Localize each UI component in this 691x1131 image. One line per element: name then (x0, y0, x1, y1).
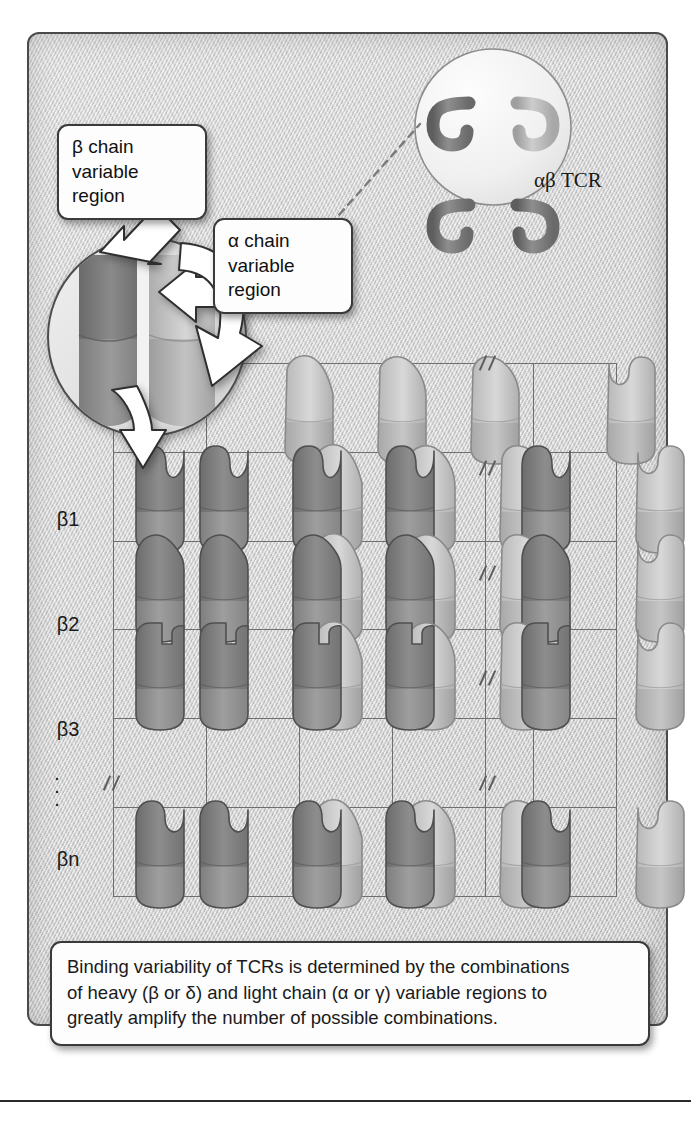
row-header-ellipsis: ··· (46, 770, 68, 809)
chain-pair (207, 453, 299, 541)
matrix-cell-betan-alphan[interactable] (534, 808, 617, 897)
matrix-cell-dots-break[interactable] (486, 719, 534, 808)
chain-pair (534, 542, 616, 630)
chain-pair (534, 630, 616, 718)
matrix-cell-dots-alpha1[interactable] (207, 719, 300, 808)
matrix-cell-beta2-alphan[interactable] (534, 541, 617, 630)
alpha-callout-line1: α chain (228, 229, 338, 254)
matrix-cell-header-alphan[interactable] (534, 364, 617, 453)
matrix-cell-dots-self[interactable] (114, 719, 207, 808)
matrix-row (114, 541, 617, 630)
matrix-cell-betan-alpha1[interactable] (207, 808, 300, 897)
chain-pair (534, 453, 616, 541)
chain-pair (114, 630, 206, 718)
matrix-cell-beta2-alpha1[interactable] (207, 541, 300, 630)
matrix-cell-beta3-alpha1[interactable] (207, 630, 300, 719)
matrix-cell-beta1-alphan[interactable] (534, 452, 617, 541)
chain-pair (207, 630, 299, 718)
matrix-cell-beta1-alpha1[interactable] (207, 452, 300, 541)
caption-line-1: Binding variability of TCRs is determine… (67, 954, 633, 980)
chain-pair (300, 542, 392, 630)
matrix-row (114, 630, 617, 719)
matrix-cell-beta3-alpha3[interactable] (393, 630, 486, 719)
matrix-cell-beta2-self[interactable] (114, 541, 207, 630)
alpha-chain-callout: α chain variable region (213, 218, 353, 314)
row-header-beta1: β1 (38, 508, 98, 531)
matrix-cell-betan-alpha2[interactable] (300, 808, 393, 897)
caption-line-2: of heavy (β or δ) and light chain (α or … (67, 980, 633, 1006)
tcr-combination-matrix (113, 363, 616, 897)
tcr-label: αβ TCR (534, 168, 602, 193)
chain-pair (300, 808, 392, 896)
chain-pair (534, 808, 616, 896)
chain-pair (393, 453, 485, 541)
matrix-cell-beta1-alpha3[interactable] (393, 452, 486, 541)
chain-pair (393, 364, 485, 452)
matrix-cell-beta2-alpha3[interactable] (393, 541, 486, 630)
beta-callout-line1: β chain (72, 135, 192, 160)
magnified-beta-variable-region (79, 255, 137, 426)
matrix-cell-betan-alpha3[interactable] (393, 808, 486, 897)
chain-pair (534, 364, 616, 452)
matrix-cell-beta3-alphan[interactable] (534, 630, 617, 719)
matrix-cell-header-break[interactable] (486, 364, 534, 453)
chain-pair (393, 808, 485, 896)
magnified-alpha-variable-region (149, 255, 215, 426)
caption-line-3: greatly amplify the number of possible c… (67, 1005, 633, 1031)
matrix-row (114, 452, 617, 541)
chain-pair (114, 453, 206, 541)
matrix-cell-dots-alpha3[interactable] (393, 719, 486, 808)
figure-caption: Binding variability of TCRs is determine… (50, 941, 650, 1046)
matrix-row (114, 719, 617, 808)
matrix-cell-header-alpha3[interactable] (393, 364, 486, 453)
beta-callout-line3: region (72, 184, 192, 209)
row-header-beta3: β3 (38, 718, 98, 741)
chain-pair (114, 808, 206, 896)
matrix-cell-beta3-self[interactable] (114, 630, 207, 719)
matrix-cell-beta1-self[interactable] (114, 452, 207, 541)
matrix-cell-beta3-alpha2[interactable] (300, 630, 393, 719)
chain-pair (300, 453, 392, 541)
beta-chain-callout: β chain variable region (57, 124, 207, 220)
alpha-beta-tcr-molecule (395, 45, 615, 365)
chain-pair (393, 630, 485, 718)
matrix-cell-dots-alpha2[interactable] (300, 719, 393, 808)
chain-pair (300, 630, 392, 718)
row-header-beta2: β2 (38, 613, 98, 636)
tcr-beta-chain (433, 63, 469, 345)
chain-pair (300, 364, 392, 452)
matrix-cell-betan-self[interactable] (114, 808, 207, 897)
chain-pair (114, 542, 206, 630)
row-header-betan: βn (38, 848, 98, 871)
beta-callout-line2: variable (72, 160, 192, 185)
chain-pair (207, 808, 299, 896)
matrix-cell-dots-alphan[interactable] (534, 719, 617, 808)
page-bottom-rule (0, 1100, 691, 1102)
matrix-cell-header-alpha2[interactable] (300, 364, 393, 453)
chain-pair (207, 542, 299, 630)
matrix-cell-beta2-alpha2[interactable] (300, 541, 393, 630)
alpha-callout-line3: region (228, 278, 338, 303)
chain-pair (393, 542, 485, 630)
alpha-callout-line2: variable (228, 254, 338, 279)
matrix-row (114, 808, 617, 897)
matrix-cell-beta1-alpha2[interactable] (300, 452, 393, 541)
